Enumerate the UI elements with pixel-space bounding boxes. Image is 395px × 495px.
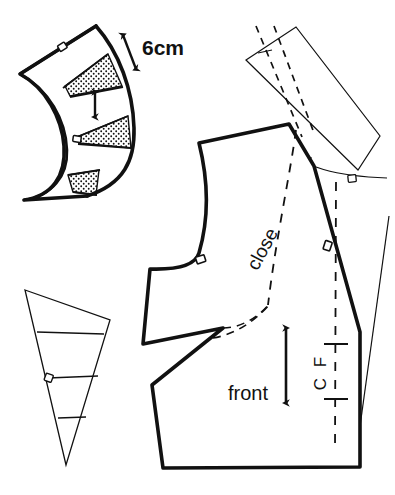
front-label: front <box>228 382 268 404</box>
notch-marker <box>348 175 357 183</box>
front-bodice-outline <box>143 124 360 468</box>
measure-arrow <box>123 35 136 69</box>
front-bodice-piece: close C F front <box>143 124 360 468</box>
notch-marker <box>73 135 82 142</box>
collar-wedge-2 <box>77 116 131 148</box>
measurement-label: 6cm <box>142 36 184 59</box>
collar-top-edge <box>20 26 96 74</box>
pattern-diagram-canvas: 6cm clos <box>0 0 395 495</box>
centre-front-label: C F <box>311 354 330 390</box>
pattern-sheet: 6cm clos <box>0 0 395 495</box>
collar-fan-piece: 6cm <box>20 26 184 200</box>
notch-marker <box>44 373 54 383</box>
collar-inner-arc <box>20 74 67 200</box>
side-panel-wedge <box>25 290 110 465</box>
